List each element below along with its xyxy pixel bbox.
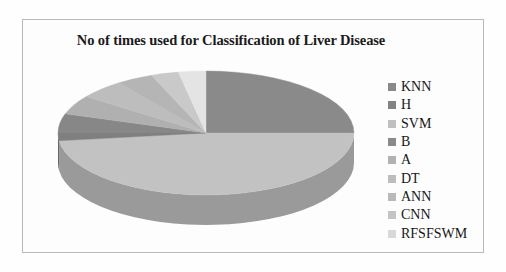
- legend-item[interactable]: A: [388, 151, 484, 169]
- legend-swatch-icon: [388, 211, 396, 219]
- legend-swatch-icon: [388, 120, 396, 128]
- legend-item-label: RFSFSWM: [401, 227, 467, 241]
- legend-swatch-icon: [388, 138, 396, 146]
- pie-slice[interactable]: [206, 71, 354, 133]
- legend-swatch-icon: [388, 156, 396, 164]
- legend-swatch-icon: [388, 230, 396, 238]
- legend-item[interactable]: SVM: [388, 115, 484, 133]
- legend-item-label: ANN: [401, 190, 431, 204]
- legend-item-label: B: [401, 135, 410, 149]
- legend-swatch-icon: [388, 83, 396, 91]
- legend-swatch-icon: [388, 193, 396, 201]
- legend-item-label: KNN: [401, 80, 431, 94]
- legend-item-label: DT: [401, 172, 420, 186]
- legend-swatch-icon: [388, 175, 396, 183]
- legend-item[interactable]: DT: [388, 169, 484, 187]
- legend-item[interactable]: ANN: [388, 188, 484, 206]
- pie-chart-svg: [40, 55, 370, 235]
- pie-chart: [40, 55, 370, 235]
- legend-item[interactable]: CNN: [388, 206, 484, 224]
- legend-item[interactable]: H: [388, 96, 484, 114]
- pie-top-slices: [58, 71, 354, 195]
- legend-item-label: SVM: [401, 117, 431, 131]
- legend-item[interactable]: RFSFSWM: [388, 224, 484, 242]
- legend-item-label: H: [401, 98, 411, 112]
- legend-item[interactable]: KNN: [388, 78, 484, 96]
- legend-item-label: A: [401, 153, 411, 167]
- legend-swatch-icon: [388, 101, 396, 109]
- legend-item[interactable]: B: [388, 133, 484, 151]
- chart-title: No of times used for Classification of L…: [24, 32, 438, 49]
- chart-legend: KNNHSVMBADTANNCNNRFSFSWM: [388, 78, 484, 243]
- legend-item-label: CNN: [401, 208, 431, 222]
- chart-figure: No of times used for Classification of L…: [0, 0, 506, 272]
